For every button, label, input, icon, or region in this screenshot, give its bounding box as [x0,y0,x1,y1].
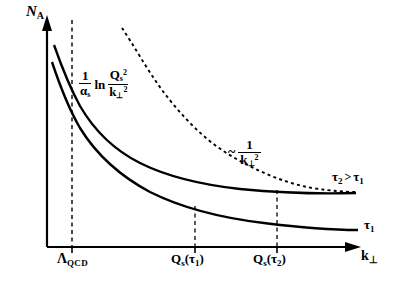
x-tick-label-lambda-qcd: ΛQCD [57,252,88,268]
qs-over-kt-fraction: Qs2 k⊥2 [108,68,128,101]
x-tick-label-qs-tau2: Qs(τ2) [253,252,286,268]
y-axis [42,15,52,247]
x-axis [47,242,361,252]
y-axis-label: NA [26,4,44,21]
perturbative-tail-annotation: ~ 1 k⊥2 [228,138,261,168]
inverse-alpha-fraction: 1 αs [79,69,91,99]
x-axis-label: k⊥ [361,249,378,265]
y-axis-label-sub: A [37,10,44,21]
inverse-kt-squared-fraction: 1 k⊥2 [238,138,260,168]
x-axis-label-sub: ⊥ [369,254,378,265]
series-label-tau2: τ2>τ1 [332,170,364,186]
plot-area [0,0,396,290]
tilde-symbol: ~ [228,146,238,160]
x-axis-label-main: k [361,248,369,263]
saturation-log-annotation: 1 αs ln Qs2 k⊥2 [79,68,128,101]
series-label-tau1: τ1 [364,218,375,234]
x-tick-label-qs-tau1: Qs(τ1) [171,252,204,268]
ln-operator: ln [91,78,108,91]
y-axis-label-main: N [26,3,37,19]
figure-canvas: NA k⊥ ΛQCD Qs(τ1) Qs(τ2) τ2>τ1 τ1 1 αs l… [0,0,396,290]
